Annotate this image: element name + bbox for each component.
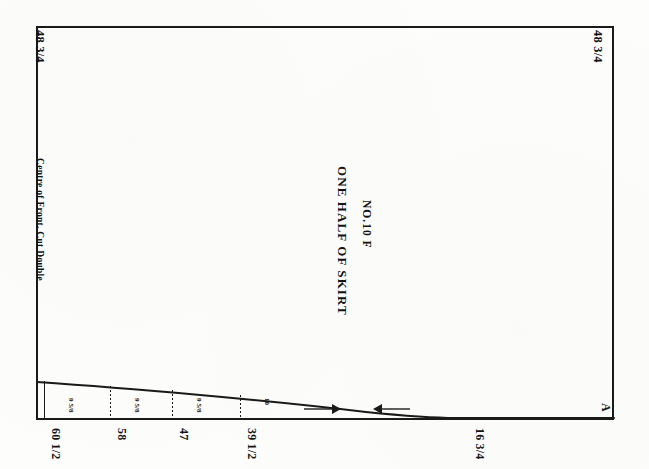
- frame-top-edge: [36, 26, 614, 28]
- grainline-note-text: Centre of Front. Cut Double: [35, 158, 45, 281]
- grainline-note: Centre of Front. Cut Double: [35, 158, 45, 281]
- tick-mark: [172, 390, 173, 418]
- edge-marker-a: A: [600, 403, 612, 412]
- pattern-number-text: NO.10 F: [361, 200, 373, 249]
- tick-mark: [110, 386, 111, 418]
- tick-mark: [240, 395, 241, 418]
- corner-label-top-right-text: 48 3/4: [591, 30, 605, 63]
- measurement-label: 16 3/4: [474, 428, 486, 460]
- measurement-sub-label: 10: [263, 398, 270, 405]
- tick-mark: [44, 381, 45, 418]
- page-title-text: ONE HALF OF SKIRT: [335, 166, 350, 316]
- edge-marker-a-text: A: [599, 403, 613, 412]
- measurement-label: 58: [116, 428, 128, 440]
- measurement-label: 47: [178, 428, 190, 440]
- pattern-sheet: 48 3/4 48 3/4 Centre of Front. Cut Doubl…: [0, 0, 649, 469]
- measurement-label: 60 1/2: [50, 428, 62, 460]
- pattern-number: NO.10 F: [361, 200, 373, 249]
- corner-label-top-left: 48 3/4: [34, 30, 47, 63]
- corner-label-top-right: 48 3/4: [592, 30, 605, 63]
- measurement-sub-label: 9 5/8: [133, 398, 140, 413]
- frame-right-edge: [612, 26, 614, 420]
- hem-curve: [36, 366, 614, 426]
- page-title: ONE HALF OF SKIRT: [336, 166, 349, 316]
- pattern-outline: [36, 26, 614, 420]
- corner-label-top-left-text: 48 3/4: [33, 30, 47, 63]
- arrow-left-icon: [372, 401, 412, 417]
- measurement-label: 39 1/2: [246, 428, 258, 460]
- measurement-sub-label: 9 5/8: [67, 398, 74, 413]
- arrow-right-icon: [302, 401, 342, 417]
- measurement-sub-label: 9 5/8: [195, 398, 202, 413]
